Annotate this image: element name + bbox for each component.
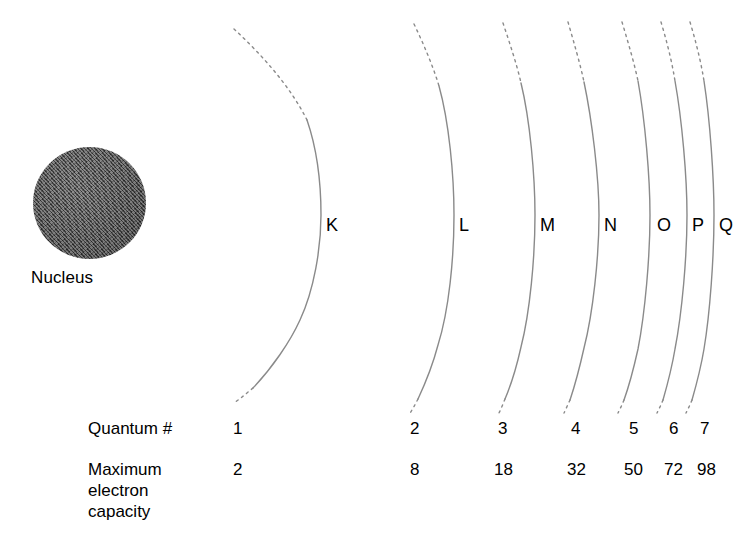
max-electrons-K: 2 bbox=[233, 461, 242, 478]
shell-arc-Q-dash-bottom bbox=[686, 400, 692, 413]
shell-label-L: L bbox=[459, 216, 469, 234]
shell-arc-P-dash-top bbox=[661, 22, 675, 81]
shell-label-N: N bbox=[604, 216, 617, 234]
shell-arc-L-solid bbox=[418, 86, 454, 399]
shell-arc-Q-solid bbox=[692, 81, 714, 400]
nucleus-sphere bbox=[33, 147, 146, 259]
shell-arc-N-dash-bottom bbox=[564, 400, 570, 413]
quantum-number-K: 1 bbox=[233, 420, 242, 437]
shell-label-O: O bbox=[657, 216, 671, 234]
shell-arc-K-dash-bottom bbox=[234, 388, 253, 403]
quantum-number-row-label: Quantum # bbox=[88, 418, 172, 439]
quantum-number-Q: 7 bbox=[700, 420, 709, 437]
max-electrons-M: 18 bbox=[494, 461, 513, 478]
max-electrons-N: 32 bbox=[567, 461, 586, 478]
quantum-number-N: 4 bbox=[571, 420, 580, 437]
shell-arc-N-dash-top bbox=[568, 22, 584, 82]
capacity-label-line-1: Maximum bbox=[88, 459, 162, 480]
shell-arc-O-dash-top bbox=[622, 22, 638, 81]
quantum-number-L: 2 bbox=[410, 420, 419, 437]
shell-label-Q: Q bbox=[719, 216, 733, 234]
shell-label-K: K bbox=[326, 216, 338, 234]
shell-arc-N-solid bbox=[570, 82, 599, 400]
nucleus-label: Nucleus bbox=[31, 268, 93, 288]
max-electrons-Q: 98 bbox=[697, 461, 716, 478]
shell-label-M: M bbox=[540, 216, 555, 234]
shell-arc-M-solid bbox=[505, 83, 535, 399]
shell-arc-O-solid bbox=[624, 81, 650, 400]
max-electron-capacity-row-label: Maximum electron capacity bbox=[88, 459, 162, 522]
capacity-label-line-2: electron bbox=[88, 480, 162, 501]
capacity-label-line-3: capacity bbox=[88, 501, 162, 522]
shell-arc-P-solid bbox=[663, 81, 687, 400]
shell-arc-O-dash-bottom bbox=[618, 400, 624, 413]
shell-arc-L-dash-bottom bbox=[409, 399, 418, 415]
quantum-number-P: 6 bbox=[669, 420, 678, 437]
shell-arc-Q-dash-top bbox=[690, 22, 704, 81]
shell-arc-M-dash-bottom bbox=[499, 399, 505, 413]
max-electrons-P: 72 bbox=[664, 461, 683, 478]
shell-arc-L-dash-top bbox=[414, 24, 439, 86]
quantum-number-O: 5 bbox=[629, 420, 638, 437]
max-electrons-L: 8 bbox=[410, 461, 419, 478]
max-electrons-O: 50 bbox=[624, 461, 643, 478]
shell-arc-M-dash-top bbox=[503, 23, 521, 83]
quantum-number-M: 3 bbox=[498, 420, 507, 437]
shell-label-P: P bbox=[692, 216, 704, 234]
shell-arc-K-solid bbox=[253, 120, 321, 388]
shell-arc-P-dash-bottom bbox=[657, 400, 663, 413]
shell-arc-K-dash-top bbox=[234, 29, 307, 120]
electron-shell-diagram: Nucleus K L M N O P Q Quantum # Maximum … bbox=[0, 0, 749, 552]
